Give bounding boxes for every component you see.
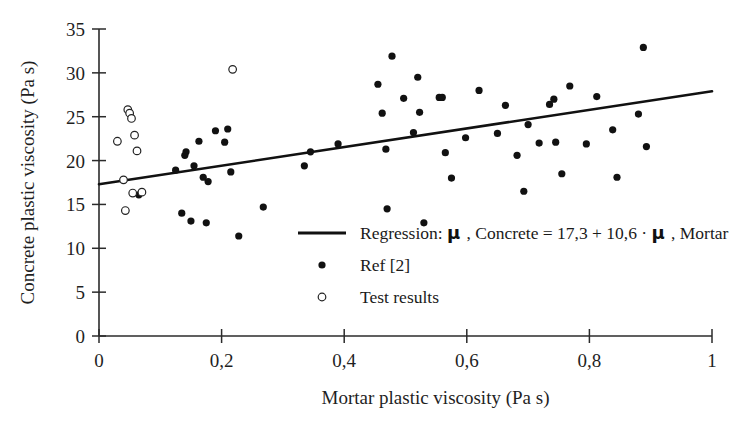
x-axis-tick-label: 1	[707, 350, 717, 371]
legend-ref-marker	[318, 261, 325, 268]
data-point-ref	[609, 126, 616, 133]
data-point-ref	[494, 130, 501, 137]
x-axis-tick-label: 0,4	[332, 350, 356, 371]
scatter-plot-canvas: 0510152025303500,20,40,60,81 Regression:…	[0, 0, 748, 426]
y-axis-title: Concrete plastic viscosity (Pa s)	[17, 61, 39, 305]
x-axis-tick-label: 0,6	[455, 350, 479, 371]
y-axis-tick-label: 20	[66, 151, 85, 172]
data-point-ref	[190, 162, 197, 169]
x-axis-tick-label: 0	[94, 350, 104, 371]
data-point-ref	[475, 87, 482, 94]
y-axis-tick-label: 30	[66, 63, 85, 84]
data-point-ref	[552, 139, 559, 146]
data-point-ref	[195, 138, 202, 145]
data-point-ref	[583, 140, 590, 147]
data-point-test	[129, 189, 137, 197]
data-point-ref	[178, 210, 185, 217]
data-point-ref	[187, 217, 194, 224]
data-point-ref	[613, 174, 620, 181]
y-axis-tick-label: 10	[66, 238, 85, 259]
data-point-ref	[462, 134, 469, 141]
data-point-ref	[640, 44, 647, 51]
data-point-test	[133, 147, 141, 155]
data-point-ref	[221, 139, 228, 146]
data-point-ref	[400, 95, 407, 102]
data-point-ref	[566, 82, 573, 89]
data-point-ref	[635, 110, 642, 117]
y-axis-tick-label: 5	[76, 282, 86, 303]
x-axis-tick-label: 0,2	[210, 350, 234, 371]
data-point-ref	[384, 205, 391, 212]
data-point-ref	[414, 74, 421, 81]
data-point-test	[138, 188, 146, 196]
legend-test-marker	[318, 293, 326, 301]
y-axis-tick-label: 15	[66, 194, 85, 215]
data-point-test	[114, 137, 122, 145]
y-axis-tick-label: 25	[66, 107, 85, 128]
chart-legend: Regression: μ , Concrete = 17,3 + 10,6 ·…	[298, 222, 729, 307]
data-point-ref	[643, 143, 650, 150]
data-point-ref	[379, 110, 386, 117]
data-point-test	[229, 66, 237, 74]
chart-figure: 0510152025303500,20,40,60,81 Regression:…	[0, 0, 748, 426]
data-point-test	[131, 131, 139, 139]
data-point-ref	[416, 109, 423, 116]
data-point-ref	[558, 170, 565, 177]
data-point-ref	[382, 146, 389, 153]
data-point-ref	[448, 175, 455, 182]
data-point-ref	[442, 149, 449, 156]
data-point-ref	[212, 127, 219, 134]
data-point-test	[122, 207, 130, 215]
data-point-ref	[235, 232, 242, 239]
data-point-ref	[307, 148, 314, 155]
x-axis-tick-label: 0,8	[578, 350, 602, 371]
data-point-ref	[205, 178, 212, 185]
regression-line	[99, 91, 712, 184]
axes-group: 0510152025303500,20,40,60,81	[66, 19, 717, 371]
data-point-ref	[172, 167, 179, 174]
data-point-ref	[224, 125, 231, 132]
data-point-ref	[227, 168, 234, 175]
data-point-ref	[301, 162, 308, 169]
data-point-ref	[502, 102, 509, 109]
data-point-ref	[513, 152, 520, 159]
y-axis-tick-label: 0	[76, 326, 86, 347]
legend-ref-label: Ref [2]	[360, 255, 410, 275]
x-axis-title: Mortar plastic viscosity (Pa s)	[322, 387, 550, 409]
data-point-ref	[550, 96, 557, 103]
legend-regression-label: Regression: μ , Concrete = 17,3 + 10,6 ·…	[360, 222, 729, 243]
data-point-ref	[593, 93, 600, 100]
data-point-ref	[182, 148, 189, 155]
legend-test-label: Test results	[360, 287, 439, 307]
data-point-ref	[520, 188, 527, 195]
data-point-ref	[536, 139, 543, 146]
y-axis-tick-label: 35	[66, 19, 85, 40]
data-point-test	[120, 176, 128, 184]
data-series-group	[99, 44, 712, 240]
data-point-ref	[334, 140, 341, 147]
data-point-ref	[388, 53, 395, 60]
data-point-ref	[410, 129, 417, 136]
data-point-ref	[260, 203, 267, 210]
data-point-test	[128, 115, 136, 123]
data-point-ref	[525, 121, 532, 128]
data-point-ref	[439, 94, 446, 101]
data-point-ref	[374, 81, 381, 88]
data-point-ref	[203, 219, 210, 226]
